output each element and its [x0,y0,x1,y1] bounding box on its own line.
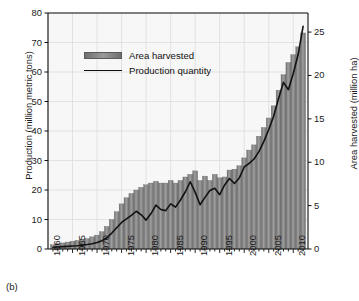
legend-label-production-quantity: Production quantity [129,65,211,76]
legend-item-area-harvested: Area harvested [84,48,211,63]
x-axis-tick-label: 1960 [52,235,61,256]
x-axis-tick-label: 1995 [224,235,233,256]
y-axis-right-tick-label: 25 [314,27,324,36]
bar [276,90,281,249]
x-axis-tick-label: 1980 [150,235,159,256]
y-axis-left-tick-label: 20 [0,185,42,194]
figure-caption: (b) [6,281,18,292]
y-axis-left-tick-label: 40 [0,126,42,135]
bar [291,55,296,249]
bar [168,180,173,249]
y-axis-left-tick-label: 50 [0,97,42,106]
bar [163,183,168,249]
line-swatch-icon [84,70,122,71]
bar [296,47,301,249]
bar [281,75,286,249]
y-axis-right-tick-label: 5 [314,201,319,210]
bar [193,171,198,249]
y-axis-left-tick-label: 10 [0,215,42,224]
bar [70,241,75,249]
x-axis-tick-label: 1985 [175,235,184,256]
bar [212,174,217,249]
x-axis-tick-label: 1965 [77,235,86,256]
bar [139,187,144,249]
y-axis-left-tick-label: 80 [0,8,42,17]
y-axis-left-tick-label: 0 [0,244,42,253]
x-axis-tick-label: 1975 [126,235,135,256]
bar [301,33,306,249]
y-axis-left-tick-label: 70 [0,38,42,47]
bar [266,118,271,249]
x-axis-tick-label: 2005 [273,235,282,256]
bar [119,204,124,249]
y-axis-left-tick-label: 30 [0,156,42,165]
bar-swatch-icon [84,52,122,59]
x-axis-tick-label: 2000 [248,235,257,256]
y-axis-right-tick-label: 10 [314,157,324,166]
legend-item-production-quantity: Production quantity [84,63,211,78]
y-axis-right-tick-label: 15 [314,114,324,123]
bar [271,106,276,249]
bar [217,178,222,249]
y-axis-right-tick-label: 20 [314,70,324,79]
y-axis-left-tick-label: 60 [0,67,42,76]
x-axis-tick-label: 2010 [297,235,306,256]
x-axis-tick-label: 1990 [199,235,208,256]
chart-legend: Area harvested Production quantity [84,48,211,78]
y-axis-right-tick-label: 0 [314,244,319,253]
legend-label-area-harvested: Area harvested [129,50,194,61]
x-axis-tick-label: 1970 [101,235,110,256]
